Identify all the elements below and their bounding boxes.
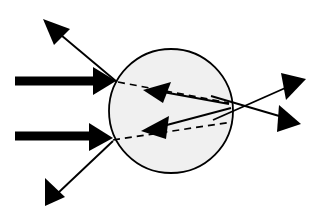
scattering-diagram-figure — [0, 0, 328, 222]
scattering-diagram-canvas — [0, 0, 328, 222]
spherical-particle — [109, 49, 233, 173]
